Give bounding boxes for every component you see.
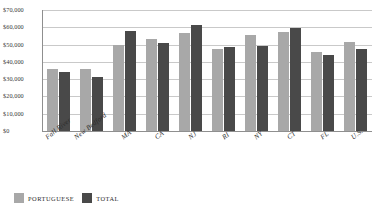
- x-tick-cell: RI: [207, 133, 240, 179]
- bar-portuguese: [113, 45, 124, 131]
- bar-portuguese: [311, 52, 322, 131]
- bar-portuguese: [212, 49, 223, 131]
- bar-total: [356, 49, 367, 131]
- bar-total: [323, 55, 334, 131]
- y-tick-label: $70,000: [3, 6, 41, 13]
- x-tick-cell: Fall River: [42, 133, 75, 179]
- x-tick-cell: MA: [108, 133, 141, 179]
- legend-item: PORTUGUESE: [14, 193, 74, 203]
- legend-swatch: [82, 193, 92, 203]
- bar-portuguese: [146, 39, 157, 131]
- x-tick-cell: CT: [273, 133, 306, 179]
- x-tick-cell: CA: [141, 133, 174, 179]
- bar-group: [108, 10, 141, 131]
- x-tick-cell: FL: [306, 133, 339, 179]
- legend-label: PORTUGUESE: [28, 195, 74, 202]
- chart-legend: PORTUGUESETOTAL: [14, 193, 119, 203]
- x-tick-label: RI: [220, 131, 230, 142]
- bar-total: [224, 47, 235, 131]
- bar-total: [290, 28, 301, 131]
- y-tick-label: $40,000: [3, 58, 41, 65]
- y-tick-label: $50,000: [3, 41, 41, 48]
- x-tick-cell: NY: [240, 133, 273, 179]
- bar-total: [191, 25, 202, 131]
- y-tick-label: $60,000: [3, 23, 41, 30]
- bar-portuguese: [278, 32, 289, 131]
- x-tick-cell: New Bedford: [75, 133, 108, 179]
- bars-layer: [42, 10, 372, 131]
- legend-item: TOTAL: [82, 193, 119, 203]
- legend-swatch: [14, 193, 24, 203]
- bar-total: [257, 46, 268, 131]
- bar-group: [339, 10, 372, 131]
- bar-group: [141, 10, 174, 131]
- x-axis-tick-labels: Fall RiverNew BedfordMACANJRINYCTFLU.S.: [42, 133, 372, 179]
- bar-chart: $70,000$60,000$50,000$40,000$30,000$20,0…: [0, 0, 378, 214]
- bar-group: [42, 10, 75, 131]
- bar-total: [125, 31, 136, 131]
- bar-group: [174, 10, 207, 131]
- legend-label: TOTAL: [96, 195, 119, 202]
- x-tick-cell: U.S.: [339, 133, 372, 179]
- bar-group: [306, 10, 339, 131]
- y-tick-label: $10,000: [3, 110, 41, 117]
- plot-area: [42, 10, 372, 131]
- bar-portuguese: [47, 69, 58, 131]
- bar-total: [158, 43, 169, 131]
- bar-group: [207, 10, 240, 131]
- y-tick-label: $0: [3, 127, 41, 134]
- x-tick-cell: NJ: [174, 133, 207, 179]
- bar-group: [273, 10, 306, 131]
- bar-group: [240, 10, 273, 131]
- bar-portuguese: [344, 42, 355, 131]
- y-tick-label: $20,000: [3, 92, 41, 99]
- y-tick-label: $30,000: [3, 75, 41, 82]
- bar-portuguese: [179, 33, 190, 131]
- bar-portuguese: [245, 35, 256, 131]
